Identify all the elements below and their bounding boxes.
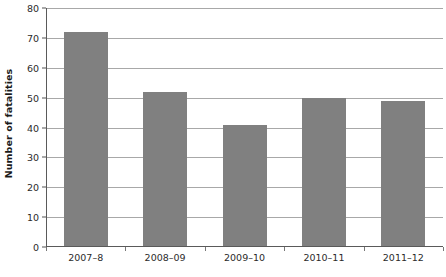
x-axis-tick-mark bbox=[205, 247, 206, 251]
bar[interactable] bbox=[381, 101, 425, 247]
y-axis-tick-label: 80 bbox=[27, 3, 39, 14]
y-axis-title: Number of fatalities bbox=[0, 0, 18, 247]
x-axis-tick-label: 2008–09 bbox=[125, 252, 204, 272]
x-axis-tick-labels: 2007–82008–092009–102010–112011–12 bbox=[46, 252, 443, 272]
bar[interactable] bbox=[143, 92, 187, 247]
x-axis-tick-mark bbox=[284, 247, 285, 251]
x-axis-tick-label: 2011–12 bbox=[364, 252, 443, 272]
y-axis-tick-labels: 01020304050607080 bbox=[18, 0, 42, 247]
y-axis-tick-label: 70 bbox=[27, 32, 39, 43]
bar[interactable] bbox=[223, 125, 267, 247]
bar[interactable] bbox=[64, 32, 108, 247]
x-axis-tick-mark bbox=[443, 247, 444, 251]
bar-slot bbox=[364, 8, 443, 247]
y-axis-tick-label: 50 bbox=[27, 92, 39, 103]
y-axis-tick-label: 30 bbox=[27, 152, 39, 163]
y-axis-tick-label: 10 bbox=[27, 212, 39, 223]
y-axis-title-text: Number of fatalities bbox=[4, 69, 15, 179]
x-axis-tick-mark bbox=[125, 247, 126, 251]
y-axis-tick-label: 0 bbox=[33, 242, 39, 253]
bar-slot bbox=[205, 8, 284, 247]
bar-slot bbox=[284, 8, 363, 247]
bar-slot bbox=[125, 8, 204, 247]
x-axis-tick-mark bbox=[364, 247, 365, 251]
bar-slot bbox=[46, 8, 125, 247]
bar-chart: Number of fatalities 01020304050607080 2… bbox=[0, 0, 446, 277]
y-axis-tick-label: 60 bbox=[27, 62, 39, 73]
y-axis-tick-label: 40 bbox=[27, 122, 39, 133]
bar-series bbox=[46, 8, 443, 247]
y-axis-tick-label: 20 bbox=[27, 182, 39, 193]
x-axis-tick-label: 2009–10 bbox=[205, 252, 284, 272]
bar[interactable] bbox=[302, 98, 346, 247]
x-axis-tick-label: 2010–11 bbox=[284, 252, 363, 272]
plot-area bbox=[46, 8, 443, 247]
x-axis-tick-mark bbox=[46, 247, 47, 251]
x-axis-tick-label: 2007–8 bbox=[46, 252, 125, 272]
